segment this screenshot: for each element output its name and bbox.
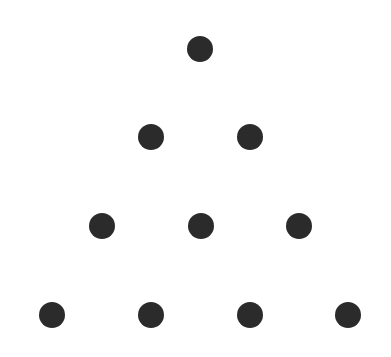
dot-row4-col1 bbox=[39, 302, 65, 328]
dot-row4-col2 bbox=[138, 302, 164, 328]
dot-row4-col4 bbox=[335, 302, 361, 328]
dot-row3-col3 bbox=[286, 213, 312, 239]
dot-row3-col2 bbox=[188, 213, 214, 239]
dot-row4-col3 bbox=[237, 302, 263, 328]
dot-row2-col2 bbox=[237, 124, 263, 150]
dot-row1-col1 bbox=[187, 36, 213, 62]
dots-group bbox=[39, 36, 361, 328]
triangle-dot-diagram bbox=[0, 0, 391, 357]
dot-row2-col1 bbox=[138, 124, 164, 150]
dot-row3-col1 bbox=[89, 213, 115, 239]
